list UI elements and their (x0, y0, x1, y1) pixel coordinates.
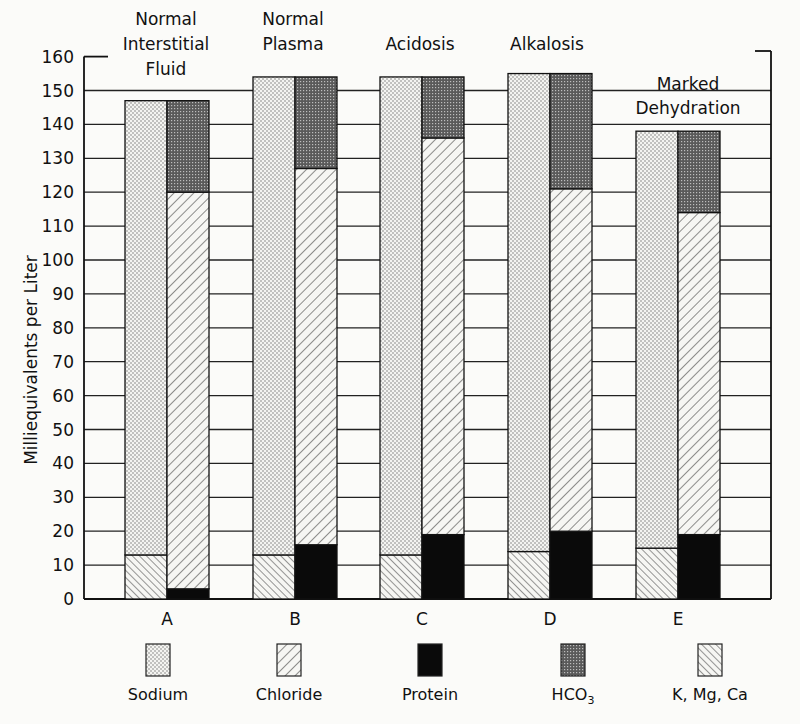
legend-swatch (418, 644, 442, 676)
y-tick-label: 30 (52, 487, 74, 507)
legend-swatch (561, 644, 585, 676)
bar-group-d (508, 74, 592, 599)
legend-item-chloride: Chloride (256, 644, 323, 704)
y-tick-label: 40 (52, 453, 74, 473)
category-title: Interstitial (123, 34, 210, 54)
legend-item-protein: Protein (402, 644, 458, 704)
y-tick-label: 50 (52, 420, 74, 440)
legend-label: Protein (402, 685, 458, 704)
category-title: Plasma (262, 34, 323, 54)
legend-swatch (146, 644, 170, 676)
bar-segment-protein (550, 531, 592, 599)
y-tick-label: 110 (42, 216, 74, 236)
x-tick-label: D (543, 609, 556, 629)
legend-label: Sodium (128, 685, 188, 704)
legend-swatch (277, 644, 301, 676)
bar-segment-chloride (167, 192, 209, 589)
x-tick-label: A (161, 609, 173, 629)
y-tick-label: 100 (42, 250, 74, 270)
legend: SodiumChlorideProteinHCO3K, Mg, Ca (128, 644, 748, 707)
bar-segment-chloride (678, 213, 720, 535)
bar-segment-sodium (636, 131, 678, 548)
bar-group-b (253, 77, 337, 599)
x-axis-labels: ABCDE (161, 609, 683, 629)
category-title: Normal (262, 9, 324, 29)
bar-segment-k-mg-ca (253, 555, 295, 599)
bar-segment-sodium (253, 77, 295, 555)
bar-segment-sodium (508, 74, 550, 552)
category-title: Normal (135, 9, 197, 29)
bar-segment-k-mg-ca (125, 555, 167, 599)
bar-segment-k-mg-ca (508, 552, 550, 599)
bar-segment-k-mg-ca (380, 555, 422, 599)
x-tick-label: E (673, 609, 684, 629)
x-tick-label: B (289, 609, 301, 629)
y-tick-label: 160 (42, 47, 74, 67)
legend-swatch (698, 644, 722, 676)
bar-group-a (125, 101, 209, 599)
category-title: Marked (657, 74, 720, 94)
legend-label: HCO3 (552, 685, 595, 707)
y-tick-label: 140 (42, 114, 74, 134)
bar-segment-hco3 (295, 77, 337, 169)
bar-segment-hco3 (550, 74, 592, 189)
legend-item-hco: HCO3 (552, 644, 595, 707)
bar-segment-chloride (550, 189, 592, 531)
category-title: Dehydration (635, 98, 740, 118)
bars (125, 74, 720, 599)
legend-item-k-mg-ca: K, Mg, Ca (672, 644, 748, 704)
bar-segment-protein (167, 589, 209, 599)
bar-segment-sodium (380, 77, 422, 555)
bar-segment-protein (422, 535, 464, 599)
y-tick-label: 20 (52, 521, 74, 541)
category-title: Acidosis (385, 34, 454, 54)
y-tick-label: 70 (52, 352, 74, 372)
y-tick-label: 130 (42, 148, 74, 168)
y-tick-label: 90 (52, 284, 74, 304)
bar-segment-hco3 (422, 77, 464, 138)
bar-group-c (380, 77, 464, 599)
y-tick-label: 10 (52, 555, 74, 575)
bar-segment-hco3 (678, 131, 720, 212)
electrolyte-bar-chart: Milliequivalents per Liter 0102030405060… (0, 0, 800, 724)
y-tick-label: 120 (42, 182, 74, 202)
y-axis-label: Milliequivalents per Liter (21, 255, 41, 465)
bar-segment-chloride (295, 168, 337, 544)
y-tick-label: 60 (52, 386, 74, 406)
bar-segment-protein (295, 545, 337, 599)
y-axis-ticks: 0102030405060708090100110120130140150160 (42, 47, 74, 609)
legend-label: Chloride (256, 685, 323, 704)
bar-group-e (636, 131, 720, 599)
bar-segment-protein (678, 535, 720, 599)
bar-segment-k-mg-ca (636, 548, 678, 599)
legend-item-sodium: Sodium (128, 644, 188, 704)
legend-label: K, Mg, Ca (672, 685, 748, 704)
y-tick-label: 150 (42, 81, 74, 101)
bar-segment-hco3 (167, 101, 209, 193)
bar-segment-chloride (422, 138, 464, 535)
category-title: Fluid (146, 59, 187, 79)
category-title: Alkalosis (510, 34, 584, 54)
y-tick-label: 80 (52, 318, 74, 338)
bar-segment-sodium (125, 101, 167, 555)
y-tick-label: 0 (63, 589, 74, 609)
x-tick-label: C (416, 609, 428, 629)
